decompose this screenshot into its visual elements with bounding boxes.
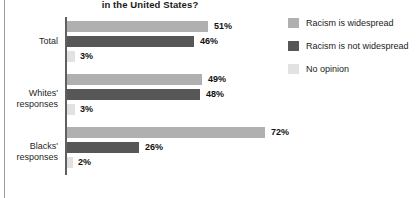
bar-total-no-opinion bbox=[67, 51, 75, 62]
group-label-whites: Whites' responses bbox=[0, 88, 58, 109]
group-label-blacks: Blacks' responses bbox=[0, 141, 58, 162]
group-label-whites-text: Whites' responses bbox=[0, 88, 58, 109]
bar-blacks-widespread bbox=[67, 127, 265, 138]
bar-value-blacks-not-widespread: 26% bbox=[145, 142, 163, 153]
legend-swatch-icon-widespread bbox=[288, 18, 299, 28]
plot-area: Total 51% 46% 3% Whites' responses 49% 4… bbox=[0, 0, 285, 198]
chart-legend: Racism is widespread Racism is not wides… bbox=[288, 0, 417, 198]
bar-value-whites-no-opinion: 3% bbox=[80, 104, 93, 115]
legend-item-no-opinion: No opinion bbox=[288, 64, 349, 74]
legend-item-not-widespread: Racism is not widespread bbox=[288, 41, 409, 51]
bar-value-blacks-widespread: 72% bbox=[271, 127, 289, 138]
legend-label-widespread: Racism is widespread bbox=[306, 18, 394, 28]
group-label-total: Total bbox=[0, 36, 58, 47]
legend-label-no-opinion: No opinion bbox=[306, 64, 349, 74]
group-label-blacks-text: Blacks' responses bbox=[0, 141, 58, 162]
bar-whites-not-widespread bbox=[67, 89, 200, 100]
bar-value-total-widespread: 51% bbox=[214, 21, 232, 32]
bar-value-whites-widespread: 49% bbox=[208, 74, 226, 85]
bar-value-whites-not-widespread: 48% bbox=[206, 89, 224, 100]
bar-total-widespread bbox=[67, 21, 208, 32]
bar-value-total-no-opinion: 3% bbox=[80, 51, 93, 62]
bar-whites-widespread bbox=[67, 74, 202, 85]
chart-container: in the United States? Total 51% 46% 3% W… bbox=[0, 0, 417, 198]
bar-blacks-no-opinion bbox=[67, 157, 73, 168]
bar-value-blacks-no-opinion: 2% bbox=[78, 157, 91, 168]
bar-total-not-widespread bbox=[67, 36, 194, 47]
legend-swatch-icon-not-widespread bbox=[288, 41, 299, 51]
legend-label-not-widespread: Racism is not widespread bbox=[306, 41, 409, 51]
bar-value-total-not-widespread: 46% bbox=[200, 36, 218, 47]
legend-swatch-icon-no-opinion bbox=[288, 64, 299, 74]
bar-blacks-not-widespread bbox=[67, 142, 139, 153]
legend-item-widespread: Racism is widespread bbox=[288, 18, 394, 28]
bar-whites-no-opinion bbox=[67, 104, 75, 115]
group-label-total-text: Total bbox=[0, 36, 58, 47]
